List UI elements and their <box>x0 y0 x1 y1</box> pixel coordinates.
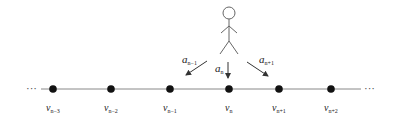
label-v-n: vn <box>225 102 232 114</box>
node-v-n-2 <box>107 85 115 93</box>
node-v-n-3 <box>49 85 57 93</box>
node-v-n-plus-1 <box>275 85 283 93</box>
label-a-n-1: an−1 <box>182 53 197 66</box>
node-v-n-plus-2 <box>327 85 335 93</box>
ellipsis-left: ··· <box>26 82 37 94</box>
label-v-n-plus-1: vn+1 <box>272 102 286 114</box>
label-v-n-3: vn−3 <box>46 102 60 114</box>
node-v-n <box>225 85 233 93</box>
label-a-n: an <box>215 62 224 75</box>
ellipsis-right: ··· <box>364 82 375 94</box>
label-v-n-plus-2: vn+2 <box>324 102 338 114</box>
node-v-n-1 <box>166 85 174 93</box>
label-v-n-1: vn−1 <box>163 102 177 114</box>
label-a-n-plus-1: an+1 <box>259 53 274 66</box>
label-v-n-2: vn−2 <box>104 102 118 114</box>
stick-person-icon <box>220 7 238 54</box>
diagram-canvas: ··· ··· vn−3 vn−2 vn−1 vn vn+1 vn+2 an−1… <box>0 0 396 121</box>
